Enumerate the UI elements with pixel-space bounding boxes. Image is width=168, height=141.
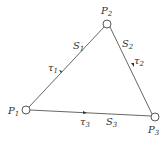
edge-s3 [30, 110, 151, 116]
edge-s1 [29, 27, 104, 107]
label-tau2: τ2 [134, 55, 145, 68]
triangle-diagram: P1 P2 P3 S1 S2 S3 τ1 τ2 τ3 [0, 0, 168, 141]
label-p3: P3 [147, 124, 160, 137]
node-p3 [151, 113, 159, 121]
label-tau1: τ1 [48, 62, 58, 75]
edge-s2 [110, 27, 152, 114]
label-s1: S1 [73, 40, 84, 53]
node-p1 [22, 106, 30, 114]
label-p2: P2 [100, 5, 113, 18]
label-s3: S3 [106, 116, 118, 129]
label-p1: P1 [7, 105, 19, 118]
label-s2: S2 [122, 38, 134, 51]
node-p2 [103, 20, 111, 28]
label-tau3: τ3 [80, 116, 91, 129]
